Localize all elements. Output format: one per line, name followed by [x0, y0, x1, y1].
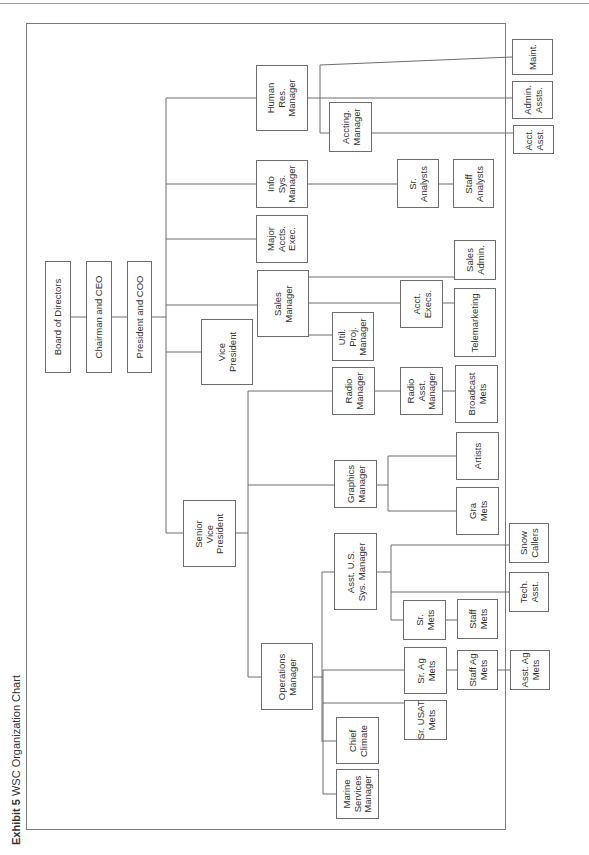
exhibit-label: Exhibit 5 — [10, 799, 22, 845]
node-board-of-directors: Board of Directors — [45, 261, 71, 373]
exhibit-title: WSC Organization Chart — [10, 675, 22, 796]
node-asst-ag-mets: Asst. Ag Mets — [510, 650, 550, 690]
node-human-res-manager: Human Res. Manager — [256, 65, 308, 131]
node-sr-usat-mets: Sr. USAT Mets — [404, 700, 447, 740]
node-util-proj-manager: Util. Proj. Manager — [332, 312, 374, 361]
node-sales-admin: Sales Admin. — [454, 240, 496, 280]
node-acct-execs: Acct. Execs. — [400, 280, 443, 328]
node-sr-mets: Sr. Mets — [403, 600, 446, 640]
node-sales-manager: Sales Manager — [257, 270, 309, 337]
node-operations-manager: Operations Manager — [261, 643, 313, 710]
node-marine-services-manager: Marine Services Manager — [336, 769, 379, 819]
node-maint: Maint. — [512, 39, 553, 75]
node-radio-asst-manager: Radio Asst. Manager — [400, 367, 443, 415]
node-asst-us-sys-manager: Asst. U.S. Sys. Manager — [334, 533, 377, 610]
node-graphics-manager: Graphics Manager — [334, 460, 377, 508]
node-accting-manager: Accting. Manager — [329, 102, 372, 152]
node-chairman-ceo: Chairman and CEO — [86, 261, 112, 373]
node-telemarketing: Telemarketing — [454, 288, 496, 357]
node-sr-ag-mets: Sr. Ag Mets — [404, 647, 447, 694]
node-staff-ag-mets: Staff Ag Mets — [457, 650, 498, 690]
node-snow-callers: Snow Callers — [509, 523, 549, 563]
node-radio-manager: Radio Manager — [332, 367, 375, 415]
node-gra-mets: Gra Mets — [456, 487, 499, 535]
node-president-coo: President and COO — [127, 261, 152, 373]
node-staff-mets: Staff Mets — [457, 599, 498, 639]
node-senior-vice-president: Senior Vice President — [183, 500, 236, 567]
node-vice-president: Vice President — [201, 319, 253, 385]
node-chief-climate: Chief Climate — [336, 717, 379, 764]
node-admin-assts: Admin. Assts. — [512, 81, 553, 119]
node-major-accts-exec: Major Accts. Exec. — [256, 215, 308, 263]
node-info-sys-manager: Info Sys. Manager — [256, 160, 308, 208]
node-staff-analysts: Staff Analysts — [453, 159, 494, 208]
node-tech-asst: Tech. Asst. — [509, 572, 549, 612]
node-broadcast-mets: Broadcast Mets — [455, 365, 498, 423]
node-sr-analysts: Sr. Analysts — [397, 159, 439, 208]
exhibit-caption: Exhibit 5 WSC Organization Chart — [10, 675, 22, 845]
node-acct-asst: Acct. Asst. — [513, 125, 554, 154]
node-artists: Artists — [456, 432, 499, 480]
